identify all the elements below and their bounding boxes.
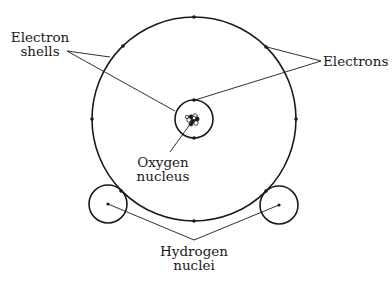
electron: [192, 15, 196, 19]
electron: [294, 117, 298, 121]
electron: [264, 189, 268, 193]
hydrogen-nuclei-label-line2: nuclei: [173, 257, 215, 273]
electron-shells-leaders: [67, 51, 175, 111]
water-molecule-diagram: Electron shells Electrons Oxygen nucleus…: [0, 0, 392, 289]
electrons-label: Electrons: [323, 53, 388, 69]
electron: [192, 219, 196, 223]
electron: [192, 136, 196, 140]
electron-shells-label-line2: shells: [20, 43, 59, 59]
electrons-leaders: [195, 47, 321, 100]
oxygen-nucleus-icon: [185, 114, 199, 126]
electron: [119, 189, 123, 193]
electron: [121, 44, 125, 48]
electron: [90, 117, 94, 121]
oxygen-nucleus-label-line2: nucleus: [137, 168, 190, 184]
